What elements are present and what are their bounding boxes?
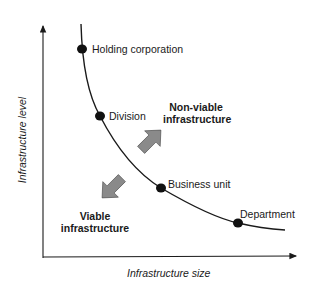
x-axis-label: Infrastructure size xyxy=(127,267,210,279)
label-non-viable-region: Non-viable infrastructure xyxy=(163,101,229,125)
label-viable-line1: Viable xyxy=(60,210,130,222)
label-division: Division xyxy=(109,110,146,122)
label-non-viable-line2: infrastructure xyxy=(163,113,229,125)
point-business-unit xyxy=(156,184,166,193)
arrow-up-right-icon xyxy=(133,122,168,157)
label-business-unit: Business unit xyxy=(168,178,230,190)
label-holding-corporation: Holding corporation xyxy=(92,43,183,55)
label-department: Department xyxy=(240,208,295,220)
label-non-viable-line1: Non-viable xyxy=(163,101,229,113)
label-viable-line2: infrastructure xyxy=(60,222,130,234)
point-holding-corporation xyxy=(77,45,87,54)
arrow-down-left-icon xyxy=(94,170,129,205)
point-division xyxy=(95,112,105,121)
y-axis-label: Infrastructure level xyxy=(16,97,28,183)
label-viable-region: Viable infrastructure xyxy=(60,210,130,234)
x-axis xyxy=(43,256,296,257)
